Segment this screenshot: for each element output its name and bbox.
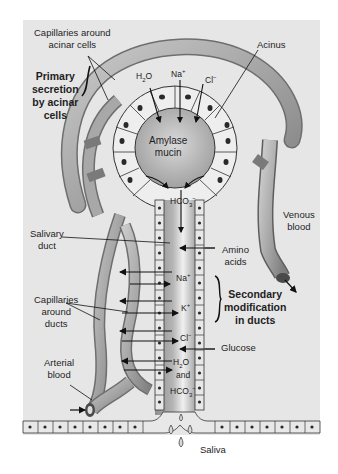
- ion-k-duct: K+: [181, 300, 190, 313]
- label-line: Capillaries: [34, 294, 78, 306]
- label-line: Amylase: [149, 135, 187, 147]
- label-glucose: Glucose: [221, 342, 256, 354]
- label-venous-blood: Venous blood: [283, 209, 315, 233]
- label-line: Capillaries around: [34, 27, 111, 39]
- label-line: mucin: [149, 147, 187, 159]
- label-capillaries-acinar: Capillaries around acinar cells: [34, 27, 111, 51]
- ion-hco3-duct: HCO3−: [170, 383, 196, 400]
- label-line: duct: [30, 240, 64, 252]
- label-line: around: [34, 306, 78, 318]
- label-line: secretion: [32, 83, 79, 96]
- label-salivary-duct: Salivary duct: [30, 228, 64, 252]
- ion-cl-top: Cl−: [205, 72, 217, 85]
- label-primary-secretion: Primary secretion by acinar cells: [32, 70, 79, 122]
- ion-h2o-top: H2O: [136, 71, 152, 85]
- label-line: ducts: [34, 318, 78, 330]
- label-arterial-blood: Arterial blood: [44, 357, 74, 381]
- label-line: Venous: [283, 209, 315, 221]
- label-line: Primary: [32, 70, 79, 83]
- label-line: Salivary: [30, 228, 64, 240]
- label-amylase-mucin: Amylase mucin: [149, 135, 187, 159]
- label-line: in ducts: [224, 314, 286, 327]
- label-secondary-modification: Secondary modification in ducts: [224, 288, 286, 327]
- label-line: Arterial: [44, 357, 74, 369]
- duct-capillary-vessels: [70, 215, 150, 417]
- ion-cl-duct: Cl−: [180, 330, 192, 343]
- label-line: by acinar: [32, 96, 79, 109]
- label-line: blood: [283, 221, 315, 233]
- label-capillaries-ducts: Capillaries around ducts: [34, 294, 78, 330]
- ion-na-duct: Na+: [176, 270, 190, 283]
- label-line: Amino: [222, 244, 249, 256]
- label-amino-acids: Amino acids: [222, 244, 249, 268]
- ion-hco3-top: HCO3−: [170, 193, 196, 210]
- ion-h2o-duct: H2O: [173, 357, 189, 371]
- label-line: acinar cells: [34, 39, 111, 51]
- ion-na-top: Na+: [171, 66, 185, 79]
- label-line: modification: [224, 301, 286, 314]
- label-saliva: Saliva: [200, 444, 226, 456]
- label-acinus: Acinus: [257, 39, 286, 51]
- ion-and: and: [176, 370, 190, 380]
- label-line: Secondary: [224, 288, 286, 301]
- label-line: cells: [32, 109, 79, 122]
- label-line: blood: [44, 369, 74, 381]
- label-line: acids: [222, 256, 249, 268]
